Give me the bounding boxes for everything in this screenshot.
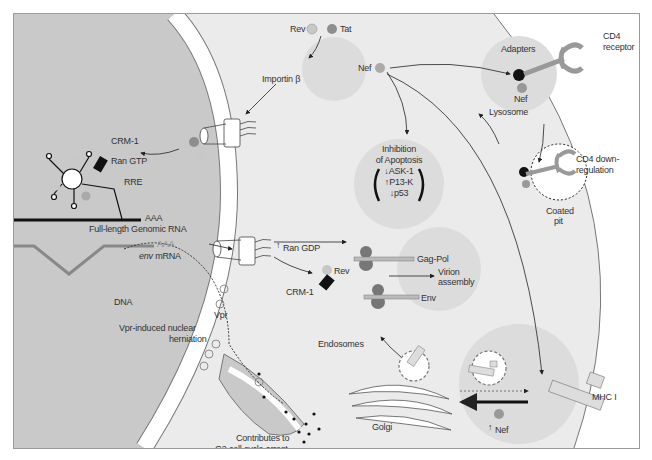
label-env-mrna: env mRNA	[139, 251, 181, 261]
label-genomic-rna: Full-length Genomic RNA	[89, 224, 186, 234]
label-ran-gdp-arrow: ↑	[276, 240, 280, 250]
label-ran-gtp: Ran GTP	[111, 156, 147, 166]
label-nef-bottom-arrow: ↑	[488, 422, 492, 432]
label-dna: DNA	[114, 297, 132, 307]
label-lysosome: Lysosome	[489, 107, 528, 117]
label-vpr-induced-1: Vpr-induced nuclear	[119, 323, 196, 333]
label-adapters: Adapters	[501, 44, 535, 54]
label-ran-gdp: Ran GDP	[283, 243, 320, 253]
diagram-frame: Rev Tat Importin β CRM-1 Ran GTP RRE AAA…	[13, 13, 640, 449]
label-p53: ↓p53	[369, 188, 429, 198]
crm1-cytoplasm	[319, 274, 335, 290]
label-inhibition-2: of Apoptosis	[369, 155, 429, 165]
label-cd4-receptor-2: receptor	[603, 42, 634, 52]
label-p13k: ↑P13-K	[369, 177, 429, 187]
label-aaa-env: AAA	[157, 239, 174, 249]
nef-protein-bottom	[494, 409, 504, 419]
label-rre: RRE	[124, 177, 142, 187]
label-inhibition-1: Inhibition	[369, 144, 429, 154]
label-nef-bottom: Nef	[495, 425, 508, 435]
label-tat-top: Tat	[340, 24, 351, 34]
label-cd4-receptor-1: CD4	[603, 31, 620, 41]
label-endosomes: Endosomes	[318, 339, 364, 349]
label-golgi: Golgi	[372, 422, 392, 432]
label-cd4-down-1: CD4 down-	[576, 154, 619, 164]
label-crm1-nucleus: CRM-1	[111, 136, 139, 146]
label-ask1: ↓ASK-1	[369, 166, 429, 176]
label-nef-top: Nef	[358, 63, 371, 73]
label-g2-2: G2 cell cycle arrest	[215, 444, 288, 449]
label-virion-1: Virion	[438, 267, 460, 277]
label-nef-adapters: Nef	[514, 94, 527, 104]
label-mhc-i: MHC I	[592, 392, 617, 402]
label-aaa-genomic: AAA	[145, 213, 162, 223]
rev-protein-cyto	[322, 265, 332, 275]
nef-zone	[302, 37, 366, 101]
label-env-italic: env	[139, 251, 153, 261]
label-env: Env	[421, 293, 436, 303]
label-g2-1: Contributes to	[236, 433, 289, 443]
label-gag-pol: Gag-Pol	[417, 254, 449, 264]
label-cd4-down-2: regulation	[576, 165, 614, 175]
label-rev-cyto: Rev	[334, 266, 349, 276]
adapters	[513, 69, 525, 81]
label-importin: Importin β	[262, 74, 300, 84]
label-vpr: Vpr	[214, 310, 227, 320]
golgi	[349, 385, 452, 430]
tat-protein-top	[327, 24, 337, 34]
label-rev-top: Rev	[290, 24, 305, 34]
label-crm1-cyto: CRM-1	[286, 287, 314, 297]
label-coated-2: pit	[554, 216, 563, 226]
label-virion-2: assembly	[438, 277, 474, 287]
label-coated-1: Coated	[546, 206, 574, 216]
nef-protein-top	[375, 63, 385, 73]
label-mrna: mRNA	[153, 251, 181, 261]
rev-protein-top	[307, 24, 317, 34]
label-vpr-induced-2: herniation	[169, 334, 207, 344]
